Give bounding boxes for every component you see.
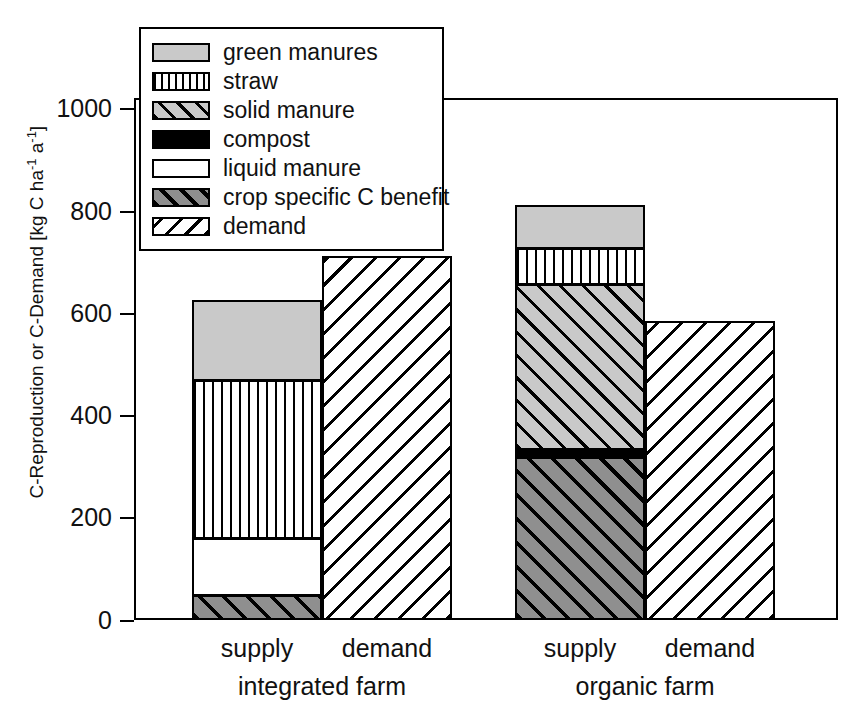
legend-label-compost: compost <box>223 128 310 151</box>
segment-straw[interactable] <box>192 380 322 539</box>
x-tick-label-organic-demand: demand <box>640 634 780 663</box>
legend-label-straw: straw <box>223 70 278 93</box>
legend-swatch-crop-specific-c-benefit-icon <box>152 188 210 207</box>
legend-label-green-manures: green manures <box>223 41 378 64</box>
y-axis-title: C-Reproduction or C-Demand [kg C ha-1 a-… <box>24 62 48 562</box>
y-axis-title-mid: a <box>26 143 47 159</box>
legend-label-liquid-manure: liquid manure <box>223 157 361 180</box>
y-tick-label-1000: 1000 <box>56 94 112 123</box>
y-tick-200 <box>120 517 134 519</box>
x-group-label-organic-farm: organic farm <box>545 672 745 701</box>
legend-label-demand: demand <box>223 215 306 238</box>
y-tick-1000 <box>120 108 134 110</box>
legend-item-demand[interactable]: demand <box>141 212 442 241</box>
bar-integrated-supply[interactable] <box>192 300 322 620</box>
segment-liquid-manure[interactable] <box>192 538 322 596</box>
y-tick-800 <box>120 211 134 213</box>
legend: green manures straw solid manure compost… <box>139 27 444 251</box>
y-tick-400 <box>120 415 134 417</box>
y-axis-title-sup1: -1 <box>24 159 39 170</box>
chart-root: C-Reproduction or C-Demand [kg C ha-1 a-… <box>0 0 868 718</box>
bar-organic-supply[interactable] <box>515 205 645 620</box>
legend-item-liquid-manure[interactable]: liquid manure <box>141 154 442 183</box>
legend-swatch-solid-manure-icon <box>152 101 210 120</box>
y-axis-title-prefix: C-Reproduction or C-Demand [kg C ha <box>26 170 47 498</box>
bar-organic-demand[interactable] <box>645 321 775 620</box>
legend-swatch-liquid-manure-icon <box>152 159 210 178</box>
segment-straw[interactable] <box>515 248 645 285</box>
legend-label-crop-specific-c-benefit: crop specific C benefit <box>223 186 449 209</box>
x-tick-label-integrated-demand: demand <box>317 634 457 663</box>
bar-integrated-demand[interactable] <box>322 256 452 620</box>
segment-demand[interactable] <box>645 321 775 620</box>
legend-item-compost[interactable]: compost <box>141 125 442 154</box>
y-axis-title-sup2: -1 <box>24 131 39 142</box>
y-tick-label-600: 600 <box>70 299 112 328</box>
legend-label-solid-manure: solid manure <box>223 99 355 122</box>
segment-crop-specific-c-benefit[interactable] <box>515 457 645 620</box>
legend-item-green-manures[interactable]: green manures <box>141 38 442 67</box>
y-tick-label-400: 400 <box>70 401 112 430</box>
y-tick-label-200: 200 <box>70 503 112 532</box>
segment-green-manures[interactable] <box>515 205 645 249</box>
legend-swatch-straw-icon <box>152 72 210 91</box>
legend-item-solid-manure[interactable]: solid manure <box>141 96 442 125</box>
legend-swatch-demand-icon <box>152 217 210 236</box>
segment-crop-specific-c-benefit[interactable] <box>192 595 322 620</box>
y-tick-600 <box>120 313 134 315</box>
x-tick-label-integrated-supply: supply <box>187 634 327 663</box>
legend-item-crop-specific-c-benefit[interactable]: crop specific C benefit <box>141 183 442 212</box>
y-tick-label-800: 800 <box>70 197 112 226</box>
y-axis-title-suffix: ] <box>26 126 47 131</box>
legend-item-straw[interactable]: straw <box>141 67 442 96</box>
segment-demand[interactable] <box>322 256 452 620</box>
legend-swatch-compost-icon <box>152 130 210 149</box>
segment-green-manures[interactable] <box>192 300 322 381</box>
x-group-label-integrated-farm: integrated farm <box>222 672 422 701</box>
segment-solid-manure[interactable] <box>515 284 645 450</box>
legend-swatch-green-manures-icon <box>152 43 210 62</box>
x-tick-label-organic-supply: supply <box>510 634 650 663</box>
y-tick-0 <box>120 620 134 622</box>
y-tick-label-0: 0 <box>98 606 112 635</box>
